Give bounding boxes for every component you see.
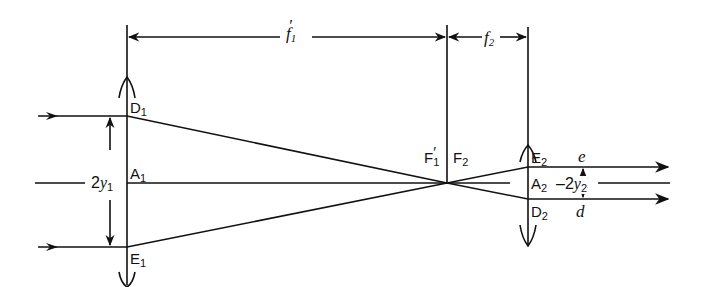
label-d2: D2 [531,204,548,222]
label-ray-d: d [576,203,585,220]
diagram-lines [0,0,702,287]
label-a2: A2 [531,176,548,194]
label-f2: f2 [484,29,494,48]
label-aperture-2y1: 2y1 [91,175,113,193]
label-e1: E1 [130,251,146,269]
label-aperture-2y2: –2y2 [556,176,587,194]
ray-d1-to-focus [127,116,447,183]
label-ray-e: e [578,148,586,165]
label-d1: D1 [130,100,147,118]
label-a1: A1 [130,166,146,184]
ray-focus-to-e2 [447,167,528,183]
label-f1-prime-focus: F1′ [424,150,442,168]
label-f2-focus: F2 [453,150,468,168]
optical-diagram: f1′ f2 D1 A1 E1 2y1 F1′ F2 E2 A2 D2 –2y2… [0,0,702,287]
label-f1-prime: f1′ [286,25,300,44]
ray-focus-to-d2 [447,183,528,199]
ray-e1-to-focus [127,183,447,247]
label-e2: E2 [531,150,547,168]
